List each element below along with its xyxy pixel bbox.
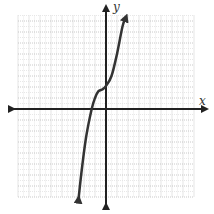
x-axis-label: x: [199, 94, 206, 108]
y-axis-label: y: [113, 0, 120, 14]
function-graph: [0, 0, 214, 214]
